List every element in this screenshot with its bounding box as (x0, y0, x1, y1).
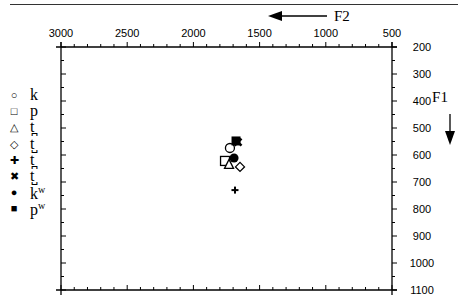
f2-arrow-icon (268, 11, 282, 21)
x-mark-icon: ✖ (8, 168, 20, 184)
f1-label: F1 (432, 89, 448, 105)
legend-item: ○k (8, 87, 20, 103)
open-square-icon: □ (8, 103, 20, 119)
y-tick-label: 300 (413, 68, 431, 80)
y-tick-label: 500 (413, 122, 431, 134)
data-point-filled-circle (230, 153, 239, 162)
legend-label: k (30, 87, 38, 103)
filled-circle-icon: ● (8, 184, 20, 200)
open-circle-icon: ○ (8, 87, 20, 103)
x-tick-label: 1000 (314, 27, 338, 39)
x-tick-label: 500 (383, 27, 401, 39)
legend-item: ●kw (8, 184, 20, 200)
y-tick-label: 1100 (410, 284, 434, 296)
legend-label: pw (30, 198, 45, 218)
legend-label: t̺ (30, 136, 34, 152)
y-tick-label: 200 (413, 41, 431, 53)
legend-item: ✖t̺ (8, 168, 20, 184)
legend-label: t̪ (30, 119, 34, 135)
plus-icon: ✚ (8, 152, 20, 168)
y-tick-label: 600 (413, 149, 431, 161)
x-tick-label: 1500 (247, 27, 271, 39)
data-point-open-diamond (236, 162, 245, 171)
x-tick-label: 2000 (181, 27, 205, 39)
legend-item: ■pw (8, 200, 20, 216)
formant-chart: 3000250020001500100050020030040050060070… (0, 0, 463, 305)
y-tick-label: 700 (413, 176, 431, 188)
x-tick-label: 2500 (115, 27, 139, 39)
legend-item: ◇t̺ (8, 136, 20, 152)
legend-label: t̪ (30, 152, 34, 168)
f1-arrow-icon (445, 131, 455, 145)
y-tick-label: 1000 (410, 257, 434, 269)
y-tick-label: 800 (413, 203, 431, 215)
x-tick-label: 3000 (49, 27, 73, 39)
legend-item: △t̪ (8, 119, 20, 135)
y-tick-label: 400 (413, 95, 431, 107)
legend-label: p (30, 103, 38, 119)
open-diamond-icon: ◇ (8, 136, 20, 152)
filled-square-icon: ■ (8, 200, 20, 216)
legend-item: □p (8, 103, 20, 119)
y-tick-label: 900 (413, 230, 431, 242)
open-triangle-icon: △ (8, 119, 20, 135)
f2-label: F2 (334, 8, 350, 24)
legend-item: ✚t̪ (8, 152, 20, 168)
